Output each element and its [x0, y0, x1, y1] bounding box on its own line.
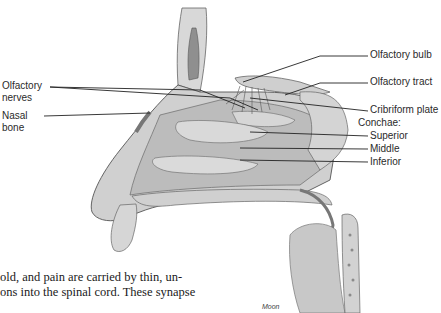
label-superior-concha: Superior	[370, 130, 408, 142]
label-nasal-bone-line1: Nasal	[2, 110, 28, 122]
olfactory-bulb-shape	[235, 76, 330, 94]
label-inferior-concha: Inferior	[370, 156, 401, 168]
label-middle-concha: Middle	[370, 143, 399, 155]
cervical-vertebrae	[342, 214, 360, 313]
label-olfactory-tract: Olfactory tract	[370, 76, 432, 88]
label-nasal-bone-line2: bone	[2, 122, 28, 134]
label-olfactory-nerves-line2: nerves	[2, 92, 42, 104]
body-text-line: ons into the spinal cord. These synapse	[0, 285, 195, 300]
label-olfactory-nerves-line1: Olfactory	[2, 80, 42, 92]
document-page: Olfactory nerves Nasal bone Olfactory bu…	[0, 0, 441, 313]
label-olfactory-nerves: Olfactory nerves	[2, 80, 42, 104]
illustrator-credit: Moon	[262, 303, 280, 310]
body-text-line: old, and pain are carried by thin, un-	[0, 270, 195, 285]
pharynx	[289, 224, 345, 313]
label-conchae-heading: Conchae:	[358, 117, 401, 129]
label-nasal-bone: Nasal bone	[2, 110, 28, 134]
label-cribriform-plate: Cribriform plate	[370, 104, 438, 116]
label-olfactory-bulb: Olfactory bulb	[370, 49, 432, 61]
body-text: old, and pain are carried by thin, un- o…	[0, 270, 195, 300]
